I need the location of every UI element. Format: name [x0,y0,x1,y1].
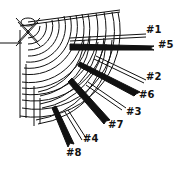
basket-weave-diagram: #1 #5 #2 #6 #3 #7 #4 #8 [0,0,188,174]
spoke-label-2: #2 [146,72,161,82]
spoke-label-6: #6 [139,90,154,100]
spoke-label-4: #4 [83,134,98,144]
spoke-label-7: #7 [108,120,123,130]
spoke-label-3: #3 [126,107,141,117]
spoke-label-8: #8 [66,148,81,158]
spoke-label-1: #1 [146,25,161,35]
spoke-label-5: #5 [158,40,173,50]
left-stakes [0,30,40,126]
